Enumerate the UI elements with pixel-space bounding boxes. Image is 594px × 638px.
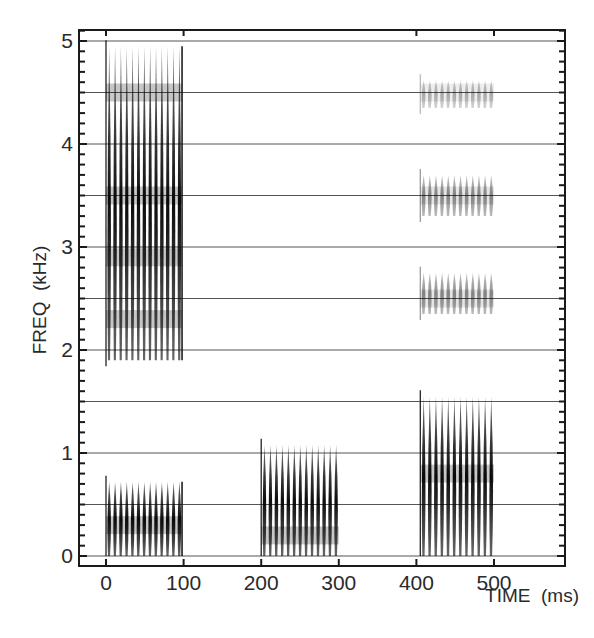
burst-2	[261, 439, 339, 556]
x-tick-label: 0	[100, 571, 112, 594]
spectrogram-chart: 012345 0100200300400500 FREQ (kHz) TIME …	[0, 0, 594, 638]
burst-1-high	[106, 40, 182, 366]
burst-1-low	[106, 476, 182, 556]
x-tick-label: 100	[166, 571, 201, 594]
x-tick-label: 300	[321, 571, 356, 594]
y-tick-label: 0	[61, 544, 73, 567]
y-tick-label: 4	[61, 132, 73, 155]
x-tick-label: 400	[399, 571, 434, 594]
y-axis-title: FREQ (kHz)	[29, 246, 50, 355]
y-tick-label: 3	[61, 235, 73, 258]
x-tick-label: 200	[244, 571, 279, 594]
burst-3-h4	[420, 74, 494, 114]
y-tick-label: 5	[61, 29, 73, 52]
burst-3-low	[420, 390, 494, 556]
burst-3-h3	[420, 169, 494, 222]
x-axis-title: TIME (ms)	[485, 585, 579, 606]
burst-3-h2	[420, 267, 494, 320]
y-tick-label: 1	[61, 441, 73, 464]
y-tick-label: 2	[61, 338, 73, 361]
